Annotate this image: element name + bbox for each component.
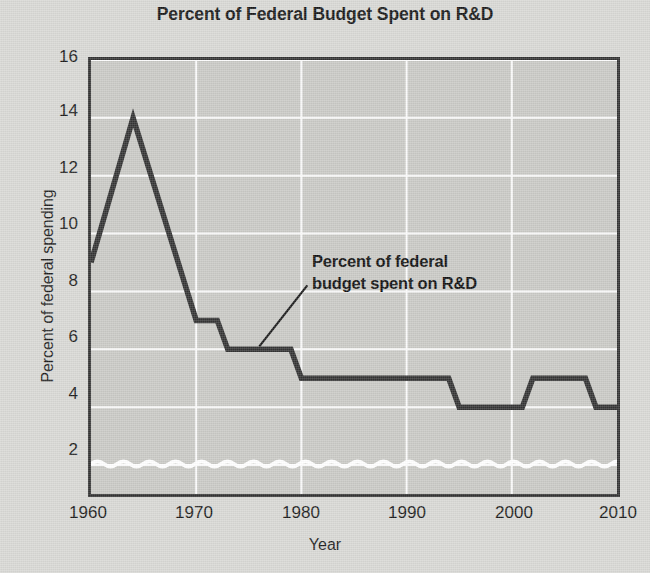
y-tick-label-4: 4	[18, 384, 78, 404]
annotation-label: Percent of federal budget spent on R&D	[312, 251, 522, 295]
x-tick-label-2000: 2000	[474, 503, 554, 523]
y-tick-label-12: 12	[18, 158, 78, 178]
y-tick-label-14: 14	[18, 101, 78, 121]
x-tick-label-1990: 1990	[367, 503, 447, 523]
y-tick-label-10: 10	[18, 214, 78, 234]
annotation-leader-line	[259, 285, 307, 346]
y-tick-label-16: 16	[18, 47, 78, 67]
x-tick-label-2010: 2010	[578, 503, 650, 523]
annotation-line-2: budget spent on R&D	[312, 274, 477, 292]
y-tick-label-8: 8	[18, 271, 78, 291]
y-tick-label-2: 2	[18, 440, 78, 460]
y-tick-label-6: 6	[18, 327, 78, 347]
x-tick-label-1970: 1970	[154, 503, 234, 523]
annotation-line-1: Percent of federal	[312, 252, 448, 270]
chart-figure: Percent of Federal Budget Spent on R&D P…	[0, 0, 650, 573]
x-axis-label: Year	[0, 536, 650, 554]
x-tick-label-1980: 1980	[261, 503, 341, 523]
x-tick-label-1960: 1960	[48, 503, 128, 523]
chart-title: Percent of Federal Budget Spent on R&D	[0, 4, 650, 25]
